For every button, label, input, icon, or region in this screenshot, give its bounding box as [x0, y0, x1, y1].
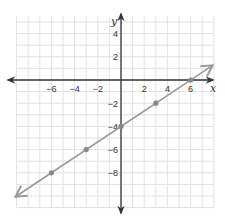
x-tick-label: 6: [188, 84, 193, 94]
x-tick-label: −6: [46, 84, 56, 94]
x-tick-label: −4: [69, 84, 79, 94]
data-point: [84, 147, 89, 152]
y-tick-label: −4: [108, 122, 118, 132]
y-tick-label: −6: [108, 145, 118, 155]
data-point: [49, 170, 54, 175]
y-axis-label: y: [110, 15, 118, 28]
x-tick-label: 4: [165, 84, 170, 94]
y-tick-label: 2: [113, 52, 118, 62]
y-tick-label: −2: [108, 99, 118, 109]
tick-labels: −6−4−224642−2−4−6−8: [46, 29, 193, 178]
data-point: [153, 101, 158, 106]
x-tick-label: 2: [142, 84, 147, 94]
y-tick-label: −8: [108, 168, 118, 178]
data-point: [188, 77, 193, 82]
x-axis-label: x: [210, 82, 217, 95]
axes: [8, 14, 213, 213]
grid-lines: [17, 16, 214, 207]
coordinate-plane: −6−4−224642−2−4−6−8 x y: [0, 0, 225, 219]
x-tick-label: −2: [93, 84, 103, 94]
y-tick-label: 4: [113, 29, 118, 39]
data-point: [118, 124, 123, 129]
